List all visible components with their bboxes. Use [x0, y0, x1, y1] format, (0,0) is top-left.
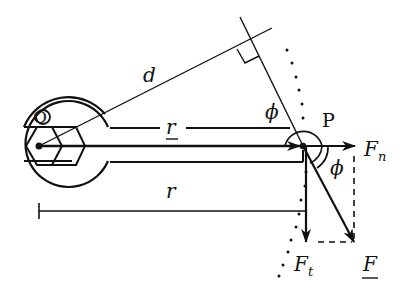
label-p: P	[322, 109, 335, 131]
torque-diagram: O d r ϕ P Fn ϕ r Ft F	[0, 0, 412, 298]
label-phi-top: ϕ	[265, 100, 279, 124]
label-f: F	[362, 252, 378, 276]
label-phi-right: ϕ	[330, 156, 344, 180]
right-angle-marker	[237, 49, 259, 63]
label-r-vector: r	[166, 115, 177, 139]
label-r-distance: r	[166, 179, 177, 203]
label-fn: Fn	[363, 137, 386, 164]
force-arrow	[303, 146, 354, 242]
line-of-action	[240, 17, 303, 146]
label-origin: O	[33, 107, 47, 127]
label-d: d	[143, 63, 156, 87]
label-ft: Ft	[293, 252, 314, 279]
